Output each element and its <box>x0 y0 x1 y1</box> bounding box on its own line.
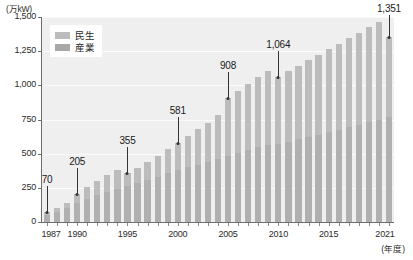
x-axis-tick-label: 2010 <box>269 229 288 239</box>
bar-segment-residential <box>235 91 241 153</box>
bar <box>114 170 120 222</box>
x-axis-tick-label: 1995 <box>118 229 137 239</box>
bar-segment-industry <box>326 132 332 222</box>
x-axis-tick <box>47 223 48 226</box>
bar <box>366 27 372 222</box>
bar-segment-industry <box>285 142 291 222</box>
bar <box>346 38 352 222</box>
bar <box>165 149 171 222</box>
bar-segment-industry <box>165 173 171 222</box>
x-axis-tick <box>228 223 229 226</box>
y-axis-tick-label: 250 <box>22 182 36 192</box>
y-axis-line <box>41 17 42 223</box>
bar <box>235 91 241 222</box>
bar-segment-residential <box>386 37 392 117</box>
bar-segment-industry <box>134 183 140 222</box>
y-axis-tick <box>38 17 41 18</box>
y-axis-tick-label: 0 <box>31 216 36 226</box>
y-axis-tick <box>38 222 41 223</box>
annotation-value-label: 355 <box>119 135 135 146</box>
x-axis-tick-label: 2000 <box>168 229 187 239</box>
y-axis-tick <box>38 51 41 52</box>
bar-segment-residential <box>315 55 321 135</box>
bar-segment-industry <box>195 165 201 222</box>
bar <box>356 33 362 222</box>
bar-segment-residential <box>245 84 251 150</box>
annotation-value-label: 1,064 <box>266 39 290 50</box>
bar-segment-industry <box>235 153 241 222</box>
bar-segment-residential <box>356 33 362 125</box>
x-axis-tick <box>389 223 390 226</box>
bar <box>54 208 60 222</box>
bar-segment-industry <box>114 189 120 222</box>
bar-segment-industry <box>74 203 80 222</box>
bar-segment-residential <box>84 187 90 199</box>
bar <box>175 143 181 222</box>
bar-segment-industry <box>376 120 382 222</box>
bar-segment-residential <box>376 22 382 120</box>
bar <box>215 115 221 222</box>
x-axis-tick <box>127 223 128 226</box>
bar-segment-industry <box>225 156 231 222</box>
x-axis-tick <box>198 223 199 226</box>
bar-segment-residential <box>215 115 221 159</box>
annotation-value-label: 70 <box>42 174 53 185</box>
bar-segment-residential <box>185 136 191 167</box>
x-axis-tick <box>339 223 340 226</box>
bar-segment-industry <box>295 139 301 222</box>
legend-swatch-icon-residential <box>55 32 70 39</box>
bar <box>275 77 281 222</box>
bar <box>94 181 100 222</box>
annotation-value-label: 1,351 <box>377 3 401 14</box>
bar <box>285 71 291 222</box>
chart-legend: 民生 産業 <box>50 25 102 57</box>
bar <box>326 49 332 222</box>
x-axis-tick <box>208 223 209 226</box>
x-axis-tick <box>379 223 380 226</box>
bar <box>295 66 301 222</box>
bar-segment-residential <box>366 27 372 122</box>
bar-segment-residential <box>175 143 181 170</box>
bar <box>144 162 150 222</box>
bar-segment-industry <box>144 180 150 222</box>
bar-segment-industry <box>336 130 342 222</box>
bar-segment-residential <box>94 181 100 195</box>
bar-segment-industry <box>155 177 161 222</box>
bar-segment-industry <box>175 170 181 222</box>
annotation-leader-line <box>77 168 78 194</box>
bar <box>305 60 311 222</box>
x-axis-tick-label: 2005 <box>218 229 237 239</box>
bar-segment-residential <box>165 149 171 173</box>
x-axis-tick-label: 2021 <box>375 229 394 239</box>
bar-segment-residential <box>326 49 332 132</box>
annotation-leader-line <box>47 186 48 212</box>
bar-segment-residential <box>265 71 271 145</box>
bar-segment-residential <box>195 129 201 164</box>
x-axis-tick <box>309 223 310 226</box>
bar <box>104 175 110 222</box>
legend-item-industry: 産業 <box>55 41 95 53</box>
x-axis-tick <box>158 223 159 226</box>
x-axis-tick <box>138 223 139 226</box>
bar-segment-industry <box>64 208 70 222</box>
bar-segment-industry <box>205 162 211 222</box>
bar-segment-residential <box>205 123 211 162</box>
x-axis-tick <box>298 223 299 226</box>
annotation-value-label: 908 <box>220 60 236 71</box>
bar <box>336 44 342 222</box>
x-axis-tick-label: 1987 <box>41 229 60 239</box>
annotation-leader-line <box>228 72 229 98</box>
bar-segment-residential <box>114 170 120 189</box>
x-axis-tick <box>97 223 98 226</box>
annotation-leader-line <box>389 15 390 37</box>
bar <box>134 168 140 222</box>
bar-segment-residential <box>134 168 140 183</box>
bar-segment-residential <box>225 98 231 156</box>
bar <box>315 55 321 222</box>
x-axis-tick <box>248 223 249 226</box>
bar <box>195 129 201 222</box>
bar-segment-residential <box>305 60 311 137</box>
bar <box>376 22 382 222</box>
bar <box>74 194 80 222</box>
bar-segment-industry <box>386 117 392 222</box>
